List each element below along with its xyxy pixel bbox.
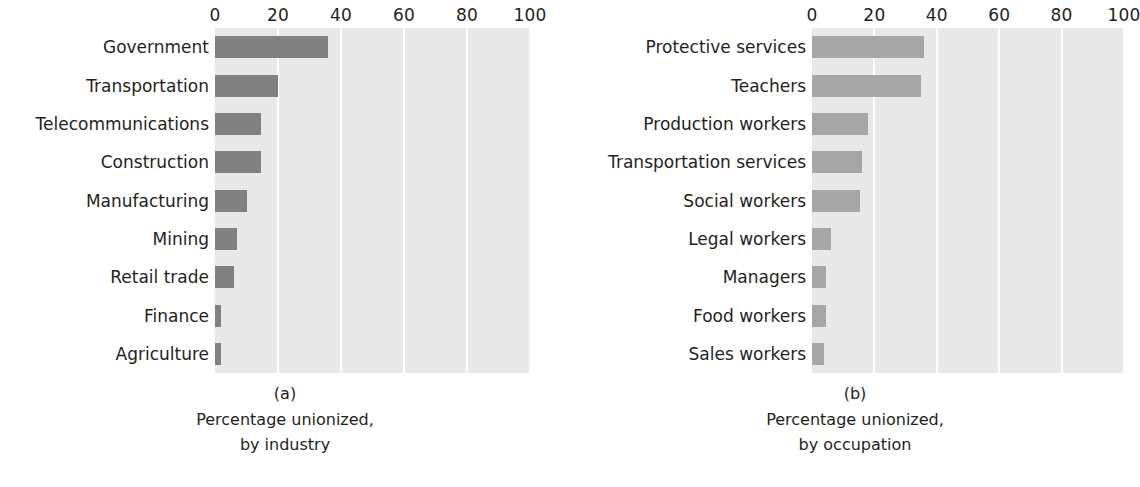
- plot-area-b: [812, 28, 1124, 373]
- caption-a-line2: by industry: [0, 432, 570, 457]
- bar: [215, 36, 328, 58]
- category-label: Legal workers: [688, 228, 806, 250]
- x-tick-label: 60: [988, 4, 1010, 26]
- caption-b-line1: Percentage unionized,: [570, 407, 1140, 432]
- category-label: Teachers: [731, 75, 806, 97]
- x-tick-label: 20: [863, 4, 885, 26]
- category-label: Social workers: [683, 190, 806, 212]
- gridline: [936, 28, 938, 373]
- bar: [812, 305, 826, 327]
- category-label: Transportation: [86, 75, 209, 97]
- category-labels-b: Protective servicesTeachersProduction wo…: [570, 28, 806, 373]
- caption-a-line1: Percentage unionized,: [0, 407, 570, 432]
- bar: [812, 266, 826, 288]
- category-label: Government: [103, 36, 209, 58]
- x-tick-label: 60: [393, 4, 415, 26]
- x-tick-label: 40: [330, 4, 352, 26]
- category-label: Retail trade: [110, 266, 209, 288]
- gridline: [340, 28, 342, 373]
- panel-letter-b: (b): [570, 381, 1140, 406]
- category-label: Agriculture: [116, 343, 210, 365]
- x-tick-label: 80: [456, 4, 478, 26]
- x-tick-label: 100: [1107, 4, 1140, 26]
- gridline: [466, 28, 468, 373]
- bar: [812, 36, 924, 58]
- bar: [215, 343, 221, 365]
- bar: [812, 75, 921, 97]
- bar: [215, 151, 261, 173]
- x-tick-label: 0: [209, 4, 220, 26]
- caption-b-line2: by occupation: [570, 432, 1140, 457]
- bar: [215, 190, 247, 212]
- gridline: [403, 28, 405, 373]
- bar: [812, 151, 862, 173]
- bar: [812, 228, 831, 250]
- category-label: Food workers: [693, 305, 806, 327]
- category-label: Construction: [101, 151, 209, 173]
- category-label: Mining: [153, 228, 209, 250]
- category-label: Managers: [723, 266, 806, 288]
- panel-letter-a: (a): [0, 381, 570, 406]
- category-label: Telecommunications: [36, 113, 209, 135]
- bar: [215, 113, 261, 135]
- caption-b: (b) Percentage unionized, by occupation: [570, 381, 1140, 457]
- category-label: Protective services: [645, 36, 806, 58]
- x-tick-label: 100: [513, 4, 546, 26]
- bar: [812, 343, 824, 365]
- chart-panel-b: 020406080100 Protective servicesTeachers…: [570, 0, 1140, 487]
- category-label: Sales workers: [689, 343, 807, 365]
- bar: [215, 305, 221, 327]
- gridline: [1123, 28, 1124, 373]
- gridline: [529, 28, 530, 373]
- bar: [812, 190, 860, 212]
- category-labels-a: GovernmentTransportationTelecommunicatio…: [0, 28, 209, 373]
- x-tick-label: 80: [1051, 4, 1073, 26]
- category-label: Production workers: [643, 113, 806, 135]
- gridline: [998, 28, 1000, 373]
- category-label: Finance: [144, 305, 209, 327]
- figure-two-bar-charts: 020406080100 GovernmentTransportationTel…: [0, 0, 1140, 487]
- x-tick-label: 0: [806, 4, 817, 26]
- bar: [215, 75, 278, 97]
- bar: [215, 266, 234, 288]
- caption-a: (a) Percentage unionized, by industry: [0, 381, 570, 457]
- x-tick-label: 40: [926, 4, 948, 26]
- category-label: Manufacturing: [86, 190, 209, 212]
- bar: [812, 113, 868, 135]
- x-tick-label: 20: [267, 4, 289, 26]
- gridline: [1061, 28, 1063, 373]
- chart-panel-a: 020406080100 GovernmentTransportationTel…: [0, 0, 570, 487]
- plot-area-a: [215, 28, 530, 373]
- category-label: Transportation services: [608, 151, 806, 173]
- bar: [215, 228, 237, 250]
